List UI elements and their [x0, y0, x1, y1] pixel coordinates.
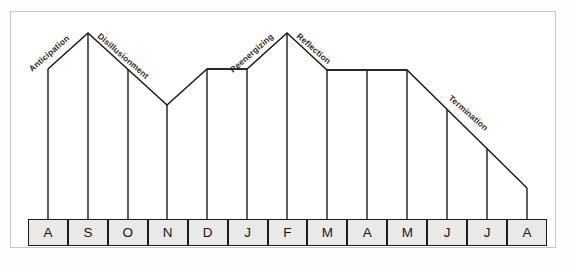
month-label: A: [523, 226, 532, 240]
month-label: J: [244, 226, 251, 240]
month-cell: F: [268, 219, 308, 246]
month-cell: A: [347, 219, 387, 246]
month-cell: S: [68, 219, 108, 246]
month-cell: D: [188, 219, 228, 246]
month-label: F: [283, 226, 291, 240]
month-cell: M: [307, 219, 347, 246]
month-cell: J: [228, 219, 268, 246]
month-cell: O: [108, 219, 148, 246]
month-label: M: [322, 226, 333, 240]
month-label: J: [444, 226, 451, 240]
phase-label-reenergizing: Reenergizing: [228, 31, 276, 74]
month-label: D: [203, 226, 213, 240]
month-cell: A: [28, 219, 68, 246]
drop-lines: [48, 33, 527, 219]
figure-root: Anticipation Disillusionment Reenergizin…: [0, 0, 569, 266]
phase-label-termination: Termination: [447, 93, 491, 133]
month-label: J: [484, 226, 491, 240]
phase-label-reflection: Reflection: [295, 31, 333, 66]
month-label: O: [123, 226, 134, 240]
month-label: N: [163, 226, 173, 240]
phase-label-disillusionment: Disillusionment: [96, 31, 151, 81]
month-cell: N: [148, 219, 188, 246]
month-cell: J: [467, 219, 507, 246]
month-label: A: [43, 226, 52, 240]
month-label: S: [83, 226, 92, 240]
month-label: A: [363, 226, 372, 240]
month-label: M: [402, 226, 413, 240]
month-cell: M: [387, 219, 427, 246]
month-cell: A: [507, 219, 547, 246]
month-cell: J: [427, 219, 467, 246]
